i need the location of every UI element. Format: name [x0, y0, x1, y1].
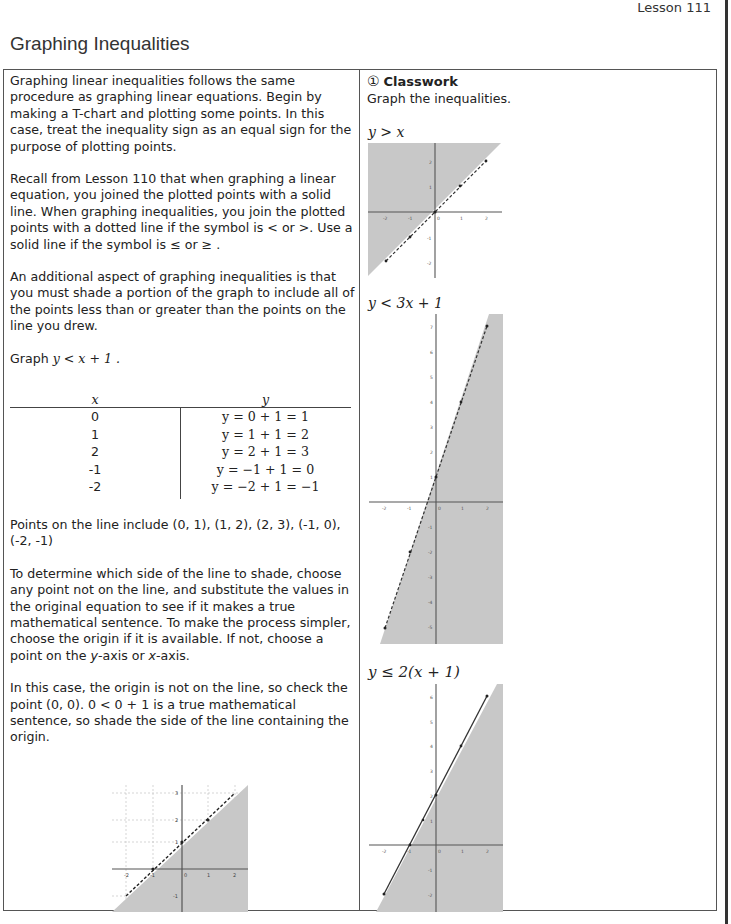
svg-text:2: 2 [175, 817, 178, 823]
svg-text:4: 4 [430, 744, 433, 749]
svg-text:3: 3 [430, 769, 433, 774]
svg-text:-3: -3 [428, 575, 433, 580]
classwork-instruction: Graph the inequalities. [367, 90, 712, 107]
svg-text:4: 4 [430, 400, 433, 405]
t-chart: x y 0 y = 0 + 1 = 1 1 y = 1 + 1 = 2 2 y … [10, 392, 351, 496]
page-edge [725, 0, 728, 924]
explanation-column-lower: Points on the line include (0, 1), (1, 2… [10, 517, 358, 762]
explanation-column: Graphing linear inequalities follows the… [10, 73, 358, 367]
svg-text:-1: -1 [150, 872, 155, 878]
t-chart-divider [180, 407, 181, 499]
svg-text:6: 6 [430, 695, 433, 700]
svg-text:3: 3 [175, 790, 178, 796]
circled-one-icon: ① [367, 73, 380, 89]
svg-text:-1: -1 [428, 525, 433, 530]
svg-text:-2: -2 [124, 872, 129, 878]
page-title: Graphing Inequalities [10, 33, 190, 55]
graph-prompt-equation: y < x + 1 . [53, 351, 120, 366]
svg-text:1: 1 [430, 475, 433, 480]
svg-text:1: 1 [429, 185, 432, 190]
svg-text:2: 2 [486, 849, 489, 854]
t-chart-header-x: x [10, 392, 180, 407]
svg-text:-1: -1 [427, 236, 432, 241]
svg-text:2: 2 [486, 506, 489, 511]
svg-text:-2: -2 [427, 261, 432, 266]
problem-3-graph: -2-1012 654321 -1-2 [369, 684, 503, 912]
svg-text:2: 2 [429, 160, 432, 165]
svg-text:-2: -2 [428, 893, 433, 898]
intro-paragraph: Graphing linear inequalities follows the… [10, 73, 358, 155]
problem-2-graph: -2-1012 7654321 -1-2-3-4-5 [369, 314, 503, 644]
svg-text:1: 1 [175, 839, 178, 845]
svg-text:-2: -2 [382, 506, 387, 511]
svg-text:1: 1 [461, 506, 464, 511]
svg-text:1: 1 [207, 872, 210, 878]
svg-text:-1: -1 [428, 868, 433, 873]
graph-prompt: Graph y < x + 1 . [10, 351, 358, 367]
svg-text:2: 2 [485, 216, 488, 221]
svg-text:2: 2 [430, 450, 433, 455]
svg-text:1: 1 [461, 849, 464, 854]
svg-text:0: 0 [184, 872, 187, 878]
svg-text:5: 5 [430, 375, 433, 380]
svg-text:6: 6 [430, 350, 433, 355]
test-point-paragraph: To determine which side of the line to s… [10, 566, 358, 664]
svg-text:-1: -1 [173, 893, 178, 899]
shading-paragraph: An additional aspect of graphing inequal… [10, 269, 358, 335]
example-graph-y-lt-x-plus-1: -2-1012 321-1 [112, 780, 252, 912]
svg-text:7: 7 [430, 325, 433, 330]
problem-1-label: y > x [368, 124, 404, 140]
problem-3-label: y ≤ 2(x + 1) [368, 663, 460, 681]
svg-text:-2: -2 [428, 550, 433, 555]
svg-text:0: 0 [437, 216, 440, 221]
line-style-paragraph: Recall from Lesson 110 that when graphin… [10, 171, 358, 253]
svg-text:-2: -2 [382, 849, 387, 854]
svg-text:-4: -4 [428, 600, 433, 605]
svg-text:2: 2 [430, 794, 433, 799]
svg-text:2: 2 [233, 872, 236, 878]
svg-text:-1: -1 [408, 216, 413, 221]
svg-text:1: 1 [430, 819, 433, 824]
t-chart-header-y: y [180, 392, 351, 407]
t-chart-header: x y [10, 392, 351, 408]
svg-text:-5: -5 [428, 625, 433, 630]
svg-text:3: 3 [430, 425, 433, 430]
problem-1-graph: -2-1012 21-1-2 [368, 143, 502, 278]
lesson-label: Lesson 111 [637, 0, 711, 15]
svg-text:0: 0 [438, 849, 441, 854]
svg-text:-1: -1 [407, 506, 412, 511]
classwork-heading: ① Classwork [367, 73, 712, 90]
points-paragraph: Points on the line include (0, 1), (1, 2… [10, 517, 358, 550]
svg-text:0: 0 [438, 506, 441, 511]
svg-text:5: 5 [430, 720, 433, 725]
svg-text:-1: -1 [407, 849, 412, 854]
problem-2-label: y < 3x + 1 [368, 295, 443, 311]
classwork-column: ① Classwork Graph the inequalities. [367, 73, 712, 107]
svg-text:-2: -2 [383, 216, 388, 221]
column-divider [359, 69, 360, 911]
origin-paragraph: In this case, the origin is not on the l… [10, 680, 358, 746]
svg-text:1: 1 [460, 216, 463, 221]
